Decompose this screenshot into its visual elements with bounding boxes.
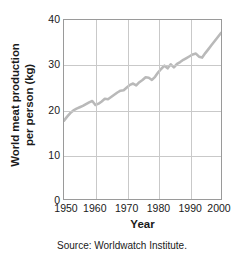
y-gridline <box>64 156 221 157</box>
source-caption: Source: Worldwatch Institute. <box>0 240 244 252</box>
x-axis-tick-labels: 195019601970198019902000 <box>63 203 222 217</box>
y-tick-label: 10 <box>40 150 60 161</box>
x-tick-label: 1960 <box>83 203 106 214</box>
x-tick-label: 1990 <box>179 203 202 214</box>
x-gridline <box>128 20 129 199</box>
y-axis-tick-labels: 010203040 <box>38 0 60 258</box>
y-tick-label: 40 <box>40 14 60 25</box>
x-gridline <box>191 20 192 199</box>
x-tick-label: 1950 <box>54 203 77 214</box>
y-tick-label: 30 <box>40 59 60 70</box>
x-tick-label: 1970 <box>115 203 138 214</box>
x-tick-label: 1980 <box>147 203 170 214</box>
plot-area <box>63 19 222 200</box>
x-gridline <box>96 20 97 199</box>
y-gridline <box>64 111 221 112</box>
series-line-world-meat-production <box>64 20 221 199</box>
x-gridline <box>159 20 160 199</box>
y-gridline <box>64 65 221 66</box>
y-tick-label: 20 <box>40 105 60 116</box>
x-tick-label: 2000 <box>207 203 230 214</box>
y-axis-title-line-1: World meat production <box>9 43 23 167</box>
y-axis-title-line-2: per person (kg) <box>22 43 36 167</box>
x-axis-title: Year <box>63 218 222 230</box>
chart-figure: World meat production per person (kg) 01… <box>0 0 244 258</box>
